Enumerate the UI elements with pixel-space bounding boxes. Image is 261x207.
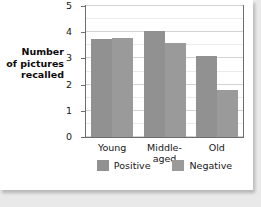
bar-positive-young xyxy=(91,39,112,137)
legend-item-negative: Negative xyxy=(172,160,232,171)
legend-item-positive: Positive xyxy=(97,160,151,171)
bar-group xyxy=(196,6,238,137)
chart-figure: Number of pictures recalled 012345 Young… xyxy=(0,0,261,207)
plot-area xyxy=(85,5,244,138)
bar-negative-old xyxy=(217,90,238,137)
y-axis-tick-label: 4 xyxy=(56,26,72,37)
y-axis-title: Number of pictures recalled xyxy=(2,46,64,81)
y-axis-tick-label: 3 xyxy=(56,52,72,63)
x-axis-tick-label: Young xyxy=(86,142,138,153)
chart-card: Number of pictures recalled 012345 Young… xyxy=(0,0,253,190)
y-axis-tick-label: 5 xyxy=(56,0,72,11)
chart-legend: PositiveNegative xyxy=(85,160,244,171)
legend-swatch-negative xyxy=(172,160,184,171)
bar-positive-old xyxy=(196,56,217,137)
legend-label-positive: Positive xyxy=(114,160,151,171)
bar-negative-middle-aged xyxy=(165,43,186,137)
bar-negative-young xyxy=(112,38,133,137)
legend-label-negative: Negative xyxy=(189,160,232,171)
bar-positive-middle-aged xyxy=(144,31,165,137)
x-axis-tick-label: Old xyxy=(191,142,243,153)
bar-group xyxy=(91,6,133,137)
y-axis-tick-label: 1 xyxy=(56,105,72,116)
legend-swatch-positive xyxy=(97,160,109,171)
y-axis-tick-label: 0 xyxy=(56,131,72,142)
y-axis-tick-label: 2 xyxy=(56,79,72,90)
bar-group xyxy=(144,6,186,137)
